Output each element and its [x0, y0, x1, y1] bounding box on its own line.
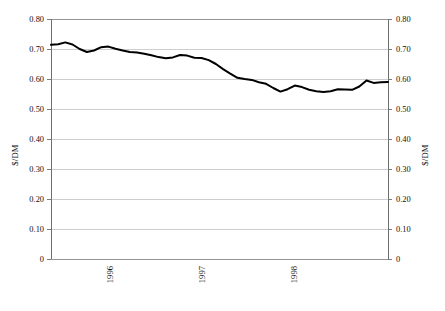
- right-y-label-8: 0: [396, 255, 400, 264]
- left-y-label-5: 0.30: [29, 165, 44, 174]
- left-y-label-1: 0.70: [29, 45, 44, 54]
- x-tick-label-1998: 1998: [289, 266, 299, 283]
- left-y-label-2: 0.60: [29, 75, 44, 84]
- left-y-label-0: 0.80: [29, 15, 44, 24]
- left-y-label-6: 0.20: [29, 195, 44, 204]
- right-y-label-1: 0.70: [396, 45, 411, 54]
- right-y-label-6: 0.20: [396, 195, 411, 204]
- exchange-rate-line-chart: 0.80 0.70 0.60 0.50 0.40 0.30 0.20 0.10 …: [0, 0, 445, 311]
- left-y-tick-labels: 0.80 0.70 0.60 0.50 0.40 0.30 0.20 0.10 …: [29, 15, 44, 264]
- right-y-label-0: 0.80: [396, 15, 411, 24]
- left-axis: [47, 19, 51, 259]
- right-y-label-2: 0.60: [396, 75, 411, 84]
- left-y-label-7: 0.10: [29, 225, 44, 234]
- right-y-label-4: 0.40: [396, 135, 411, 144]
- right-y-tick-labels: 0.80 0.70 0.60 0.50 0.40 0.30 0.20 0.10 …: [396, 15, 411, 264]
- right-axis-title: $/DM: [420, 144, 430, 165]
- right-axis: [388, 19, 392, 259]
- right-y-label-3: 0.50: [396, 105, 411, 114]
- left-y-label-3: 0.50: [29, 105, 44, 114]
- x-tick-label-1997: 1997: [197, 265, 207, 283]
- left-y-label-8: 0: [40, 255, 44, 264]
- left-axis-title: $/DM: [10, 144, 20, 165]
- right-y-label-5: 0.30: [396, 165, 411, 174]
- right-y-label-7: 0.10: [396, 225, 411, 234]
- x-tick-label-1996: 1996: [105, 265, 115, 283]
- chart-container: 0.80 0.70 0.60 0.50 0.40 0.30 0.20 0.10 …: [0, 0, 445, 311]
- left-y-label-4: 0.40: [29, 135, 44, 144]
